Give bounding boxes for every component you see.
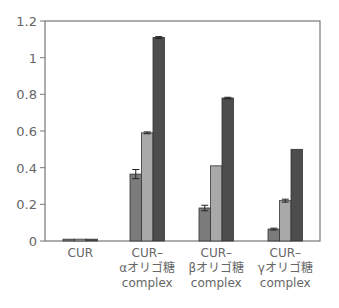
x-category-label: CUR [68,246,94,260]
bar [291,149,303,241]
bar [86,239,98,241]
y-tick-label: 0.8 [16,87,37,102]
bar [63,239,75,241]
bar [199,208,211,241]
x-axis-labels: CURCUR–αオリゴ糖complexCUR–βオリゴ糖complexCUR–γ… [68,246,313,290]
bars [63,37,303,241]
y-tick-label: 0.4 [16,161,37,176]
bar [280,201,292,241]
y-tick-label: 1 [29,51,37,66]
x-category-label: CUR–γオリゴ糖complex [258,246,313,290]
x-category-label: CUR–βオリゴ糖complex [188,246,244,290]
y-axis: 00.20.40.60.811.2 [16,14,45,249]
bar [142,133,154,241]
y-tick-label: 0 [29,234,37,249]
bar-chart: 00.20.40.60.811.2 CURCUR–αオリゴ糖complexCUR… [0,0,339,308]
bar [222,98,234,241]
y-tick-label: 0.6 [16,124,37,139]
bar [268,229,280,241]
y-tick-label: 0.2 [16,197,37,212]
y-tick-label: 1.2 [16,14,37,29]
x-category-label: CUR–αオリゴ糖complex [119,246,175,290]
bar [211,166,223,241]
bar [130,174,142,241]
plot-frame [45,21,320,241]
bar [75,239,87,241]
bar [153,38,165,242]
